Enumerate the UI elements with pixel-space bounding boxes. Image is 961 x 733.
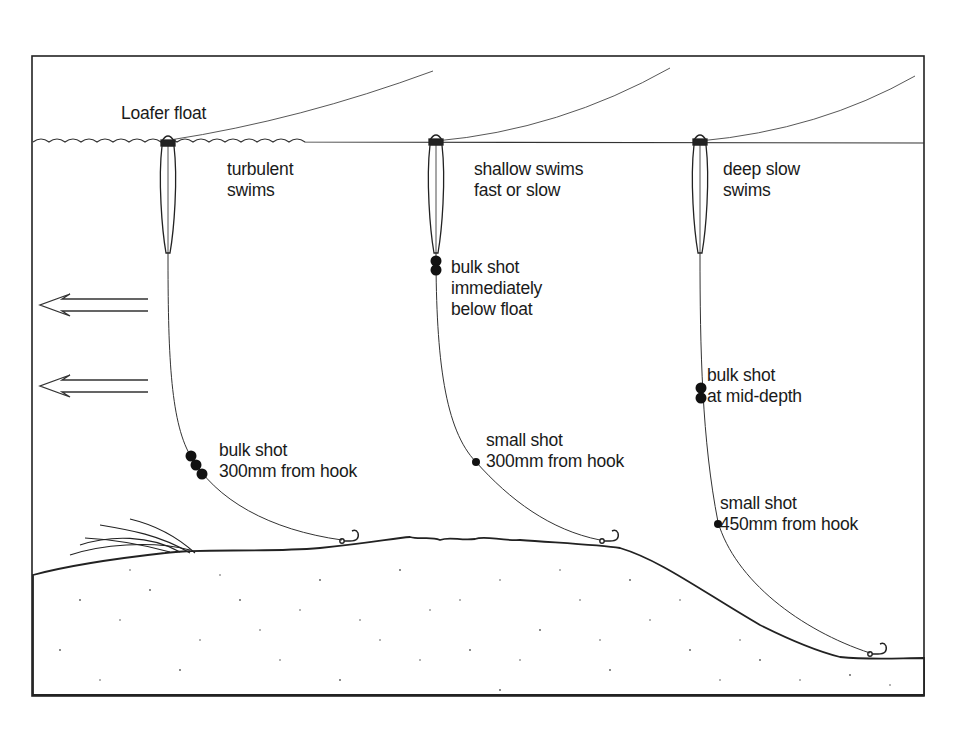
loafer-float-icon (692, 135, 707, 253)
heading-line: swims (723, 180, 800, 201)
loafer-float-icon (160, 136, 175, 253)
shot-label-line: bulk shot (451, 257, 542, 278)
shot-label-line: bulk shot (707, 365, 802, 386)
small-shot-label-deep: small shot 450mm from hook (720, 493, 858, 535)
current-arrow-icon (40, 294, 148, 316)
rig-heading-deep: deep slow swims (723, 159, 800, 201)
shot-label-turbulent: bulk shot 300mm from hook (219, 440, 357, 482)
shot-label-line: immediately (451, 278, 542, 299)
rig-heading-turbulent: turbulent swims (227, 159, 293, 201)
heading-line: deep slow (723, 159, 800, 180)
rig-line-1 (168, 253, 342, 540)
bulk-shot-icon (186, 451, 208, 480)
shot-label-line: 300mm from hook (219, 461, 357, 482)
shot-label-line: small shot (720, 493, 858, 514)
bulk-shot-icon (431, 256, 442, 276)
shot-label-line: small shot (486, 430, 624, 451)
shot-label-deep: bulk shot at mid-depth (707, 365, 802, 407)
hook-icon (600, 530, 619, 543)
shot-label-line: 300mm from hook (486, 451, 624, 472)
shot-label-line: 450mm from hook (720, 514, 858, 535)
current-arrow-icon (40, 375, 148, 397)
heading-line: fast or slow (474, 180, 583, 201)
riverbed (33, 537, 924, 695)
hook-icon (868, 643, 887, 656)
small-shot-label-shallow: small shot 300mm from hook (486, 430, 624, 472)
shot-label-line: at mid-depth (707, 386, 802, 407)
shot-label-shallow: bulk shot immediately below float (451, 257, 542, 320)
rig-heading-shallow: shallow swims fast or slow (474, 159, 583, 201)
shot-label-line: bulk shot (219, 440, 357, 461)
small-shot-icon (472, 458, 480, 466)
loafer-float-icon (428, 135, 443, 253)
weed-icon (70, 519, 195, 555)
heading-line: swims (227, 180, 293, 201)
heading-line: shallow swims (474, 159, 583, 180)
shot-label-line: below float (451, 299, 542, 320)
surface-label: Loafer float (121, 103, 206, 124)
hook-icon (340, 530, 359, 543)
rig-line-3 (700, 253, 870, 653)
line-to-rod-3 (700, 76, 915, 141)
bulk-shot-icon (696, 383, 707, 404)
line-to-rod-2 (436, 68, 670, 141)
heading-line: turbulent (227, 159, 293, 180)
line-to-rod-1 (170, 71, 433, 140)
